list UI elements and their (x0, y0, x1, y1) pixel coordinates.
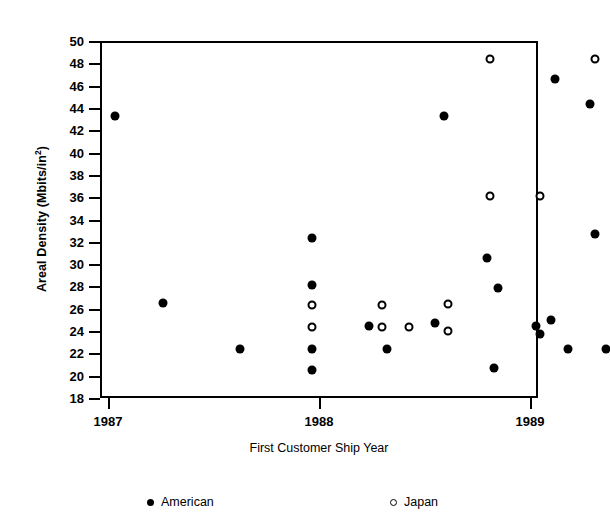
data-point-american (159, 298, 168, 307)
legend-label-japan: Japan (404, 495, 438, 509)
data-point-american (111, 111, 120, 120)
data-point-american (586, 100, 595, 109)
y-axis-tick (89, 398, 100, 400)
y-axis-tick-label: 46 (44, 78, 84, 93)
data-point-american (551, 74, 560, 83)
y-axis-tick (89, 108, 100, 110)
y-axis-tick (89, 175, 100, 177)
legend-item-american: American (147, 495, 214, 509)
y-axis-tick (89, 353, 100, 355)
x-axis-title: First Customer Ship Year (100, 441, 538, 455)
data-point-japan (444, 300, 453, 309)
legend-label-american: American (161, 495, 214, 509)
legend-marker-open-circle-icon (390, 499, 397, 506)
y-axis-tick (89, 41, 100, 43)
y-axis-tick-label: 40 (44, 145, 84, 160)
data-point-japan (444, 326, 453, 335)
y-axis-tick-label: 44 (44, 100, 84, 115)
data-point-american (430, 319, 439, 328)
data-point-american (308, 365, 317, 374)
y-axis-tick-label: 26 (44, 301, 84, 316)
y-axis-tick (89, 86, 100, 88)
chart-legend: American Japan (100, 495, 538, 517)
y-axis-tick (89, 63, 100, 65)
y-axis-tick-label: 34 (44, 212, 84, 227)
y-axis-tick-label: 48 (44, 56, 84, 71)
data-point-japan (308, 323, 317, 332)
y-axis-tick (89, 331, 100, 333)
data-point-american (546, 315, 555, 324)
data-point-japan (485, 54, 494, 63)
data-point-american (308, 234, 317, 243)
y-axis-tick (89, 286, 100, 288)
x-axis-tick (319, 398, 321, 409)
x-axis-tick (530, 398, 532, 409)
y-axis-title-exponent: 2 (33, 150, 43, 155)
y-axis-tick-label: 32 (44, 234, 84, 249)
data-point-japan (378, 323, 387, 332)
y-axis-tick (89, 153, 100, 155)
data-point-american (590, 229, 599, 238)
y-axis-tick (89, 242, 100, 244)
y-axis-tick-label: 30 (44, 257, 84, 272)
data-point-american (439, 111, 448, 120)
data-point-japan (308, 301, 317, 310)
data-point-japan (404, 323, 413, 332)
y-axis-tick (89, 309, 100, 311)
y-axis-tick-label: 28 (44, 279, 84, 294)
data-point-american (490, 363, 499, 372)
y-axis-tick-label: 22 (44, 346, 84, 361)
data-point-american (235, 344, 244, 353)
data-point-american (382, 344, 391, 353)
y-axis-tick (89, 376, 100, 378)
data-point-american (365, 322, 374, 331)
data-point-japan (590, 54, 599, 63)
y-axis-tick-label: 50 (44, 34, 84, 49)
x-axis-tick-label: 1988 (284, 414, 354, 429)
x-axis-tick-label: 1987 (73, 414, 143, 429)
x-axis-tick-label: 1989 (495, 414, 565, 429)
data-point-american (308, 281, 317, 290)
y-axis-tick (89, 220, 100, 222)
y-axis-tick-label: 20 (44, 368, 84, 383)
data-point-american (494, 284, 503, 293)
x-axis-tick (108, 398, 110, 409)
data-point-american (536, 330, 545, 339)
y-axis-tick-label: 24 (44, 324, 84, 339)
data-point-american (601, 344, 610, 353)
data-points-layer (102, 43, 536, 396)
legend-marker-filled-circle-icon (147, 499, 154, 506)
data-point-japan (378, 301, 387, 310)
data-point-japan (536, 191, 545, 200)
y-axis-tick (89, 264, 100, 266)
y-axis-tick-label: 18 (44, 391, 84, 406)
y-axis-tick (89, 130, 100, 132)
y-axis-tick-label: 36 (44, 190, 84, 205)
data-point-american (483, 254, 492, 263)
data-point-american (564, 344, 573, 353)
legend-item-japan: Japan (390, 495, 438, 509)
y-axis-tick-label: 42 (44, 123, 84, 138)
data-point-american (308, 344, 317, 353)
plot-area (100, 41, 538, 398)
y-axis-tick (89, 197, 100, 199)
y-axis-tick-label: 38 (44, 167, 84, 182)
data-point-japan (485, 191, 494, 200)
